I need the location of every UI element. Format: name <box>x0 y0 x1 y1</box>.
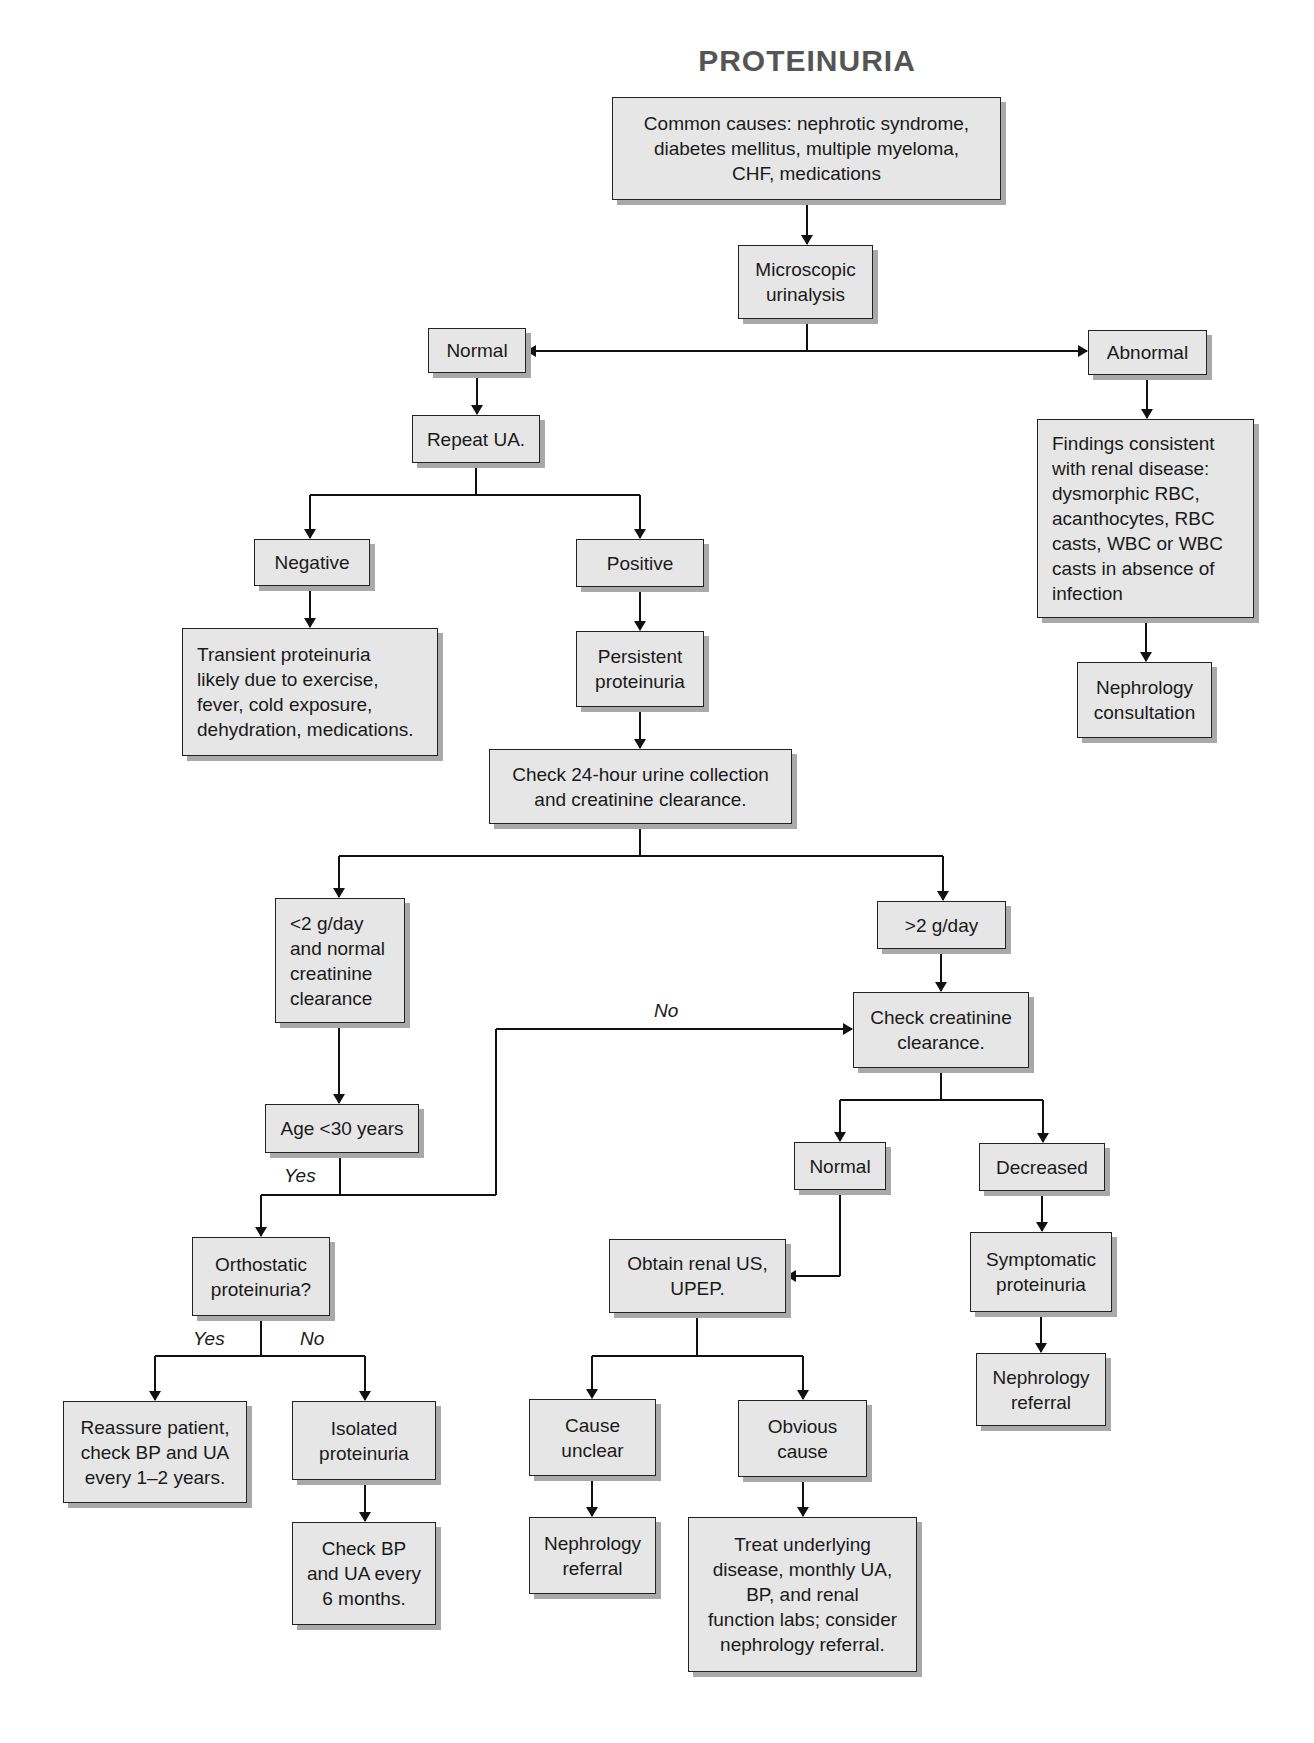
node-lt-2g-day: <2 g/day and normal creatinine clearance <box>275 898 405 1023</box>
node-check-24h-urine: Check 24-hour urine collection and creat… <box>489 749 792 824</box>
node-reassure-patient: Reassure patient, check BP and UA every … <box>63 1401 247 1503</box>
node-normal-ua: Normal <box>428 328 526 373</box>
node-obvious-cause: Obvious cause <box>738 1400 867 1477</box>
node-transient-proteinuria: Transient proteinuria likely due to exer… <box>182 628 438 756</box>
node-orthostatic-proteinuria: Orthostatic proteinuria? <box>192 1237 330 1316</box>
edge-label-ortho-no: No <box>300 1328 324 1350</box>
node-persistent-proteinuria: Persistent proteinuria <box>576 631 704 707</box>
node-abnormal-ua: Abnormal <box>1088 330 1207 375</box>
node-negative: Negative <box>254 539 370 586</box>
node-check-creatinine-clearance: Check creatinine clearance. <box>853 992 1029 1068</box>
edge-label-ortho-yes: Yes <box>193 1328 225 1350</box>
node-age-under-30: Age <30 years <box>265 1104 419 1153</box>
node-nephrology-referral-right: Nephrology referral <box>976 1353 1106 1426</box>
node-repeat-ua: Repeat UA. <box>412 415 540 463</box>
node-microscopic-urinalysis: Microscopic urinalysis <box>738 245 873 319</box>
node-cause-unclear: Cause unclear <box>529 1399 656 1476</box>
node-treat-underlying: Treat underlying disease, monthly UA, BP… <box>688 1517 917 1672</box>
node-gt-2g-day: >2 g/day <box>877 901 1006 949</box>
node-renal-disease-findings: Findings consistent with renal disease: … <box>1037 419 1254 618</box>
node-nephrology-consultation: Nephrology consultation <box>1077 662 1212 738</box>
node-isolated-proteinuria: Isolated proteinuria <box>292 1401 436 1480</box>
node-symptomatic-proteinuria: Symptomatic proteinuria <box>970 1232 1112 1312</box>
node-obtain-renal-us: Obtain renal US, UPEP. <box>609 1239 786 1313</box>
edge-label-age-yes: Yes <box>284 1165 316 1187</box>
node-check-bp-ua: Check BP and UA every 6 months. <box>292 1522 436 1625</box>
node-nephrology-referral-mid: Nephrology referral <box>529 1517 656 1594</box>
node-positive: Positive <box>576 539 704 587</box>
node-common-causes: Common causes: nephrotic syndrome, diabe… <box>612 97 1001 200</box>
node-decreased-clearance: Decreased <box>979 1143 1105 1191</box>
node-normal-clearance: Normal <box>794 1142 886 1190</box>
edge-label-age-no: No <box>654 1000 678 1022</box>
